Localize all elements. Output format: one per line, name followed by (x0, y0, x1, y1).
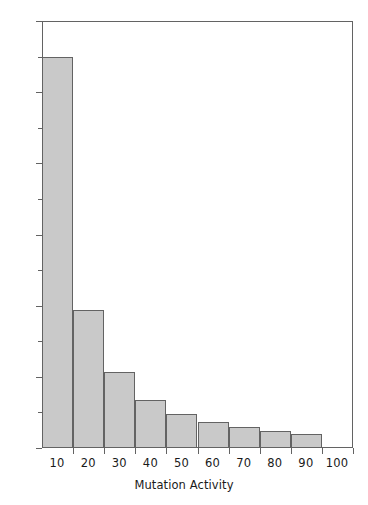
x-axis: 102030405060708090100 (0, 448, 368, 505)
x-tick-label: 70 (236, 456, 251, 470)
y-tick-major (36, 377, 42, 378)
y-tick-minor (38, 341, 42, 342)
y-tick-minor (38, 128, 42, 129)
x-tick-label: 30 (112, 456, 127, 470)
x-tick-label: 80 (267, 456, 282, 470)
bar (73, 310, 104, 448)
y-axis: 0102030405060 (0, 0, 42, 505)
bar (291, 434, 322, 448)
x-tick (322, 448, 323, 454)
bar (198, 422, 229, 448)
histogram-figure: 0102030405060 102030405060708090100 Muta… (0, 0, 368, 505)
y-tick-major (36, 21, 42, 22)
x-tick (260, 448, 261, 454)
y-tick-major (36, 163, 42, 164)
bar (135, 400, 166, 448)
x-axis-title: Mutation Activity (0, 478, 368, 492)
bar (104, 372, 135, 448)
x-tick (135, 448, 136, 454)
x-tick (229, 448, 230, 454)
bar (42, 57, 73, 448)
bar (260, 431, 291, 448)
x-tick-label: 20 (81, 456, 96, 470)
y-tick-minor (38, 199, 42, 200)
x-tick-label: 40 (143, 456, 158, 470)
y-tick-minor (38, 412, 42, 413)
bar (229, 427, 260, 448)
bar (166, 414, 197, 448)
x-tick (166, 448, 167, 454)
y-tick-minor (38, 57, 42, 58)
y-tick-minor (38, 270, 42, 271)
x-tick (104, 448, 105, 454)
x-tick-label: 90 (298, 456, 313, 470)
x-tick-label: 10 (50, 456, 65, 470)
x-tick (73, 448, 74, 454)
x-tick (353, 448, 354, 454)
y-tick-major (36, 92, 42, 93)
x-tick-label: 100 (326, 456, 349, 470)
x-tick (291, 448, 292, 454)
y-tick-major (36, 306, 42, 307)
x-tick-label: 50 (174, 456, 189, 470)
x-tick-label: 60 (205, 456, 220, 470)
y-tick-major (36, 235, 42, 236)
x-tick (198, 448, 199, 454)
bars-layer (42, 21, 353, 448)
